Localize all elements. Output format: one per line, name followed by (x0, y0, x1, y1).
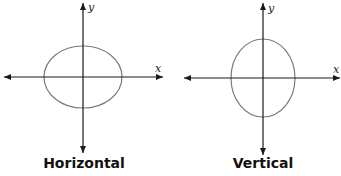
y-axis-label: y (267, 2, 275, 15)
x-axis-label: x (333, 63, 340, 76)
vertical-caption: Vertical (203, 155, 323, 171)
y-axis-label: y (87, 1, 95, 14)
horizontal-caption: Horizontal (24, 155, 144, 171)
x-axis-label: x (155, 62, 162, 75)
ellipse-diagrams: x y x y (0, 0, 341, 176)
horizontal-ellipse-graph: x y (4, 1, 163, 153)
vertical-ellipse-graph: x y (184, 2, 340, 155)
